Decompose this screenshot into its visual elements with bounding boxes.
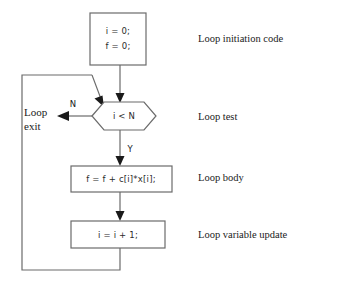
node-update-label: i = i + 1; bbox=[98, 230, 138, 240]
node-init-line1: i = 0; bbox=[106, 26, 130, 36]
connector-loop-feedback-diagonal bbox=[92, 75, 101, 99]
loop-exit-label-line1: Loop bbox=[24, 106, 48, 118]
annotation-loop-initiation-code: Loop initiation code bbox=[198, 33, 283, 44]
arrowhead-test-to-body bbox=[116, 156, 125, 166]
flowchart-canvas: i = 0; f = 0; i < N f = f + c[i]*x[i]; i… bbox=[0, 0, 337, 285]
node-test-label: i < N bbox=[113, 111, 135, 121]
arrowhead-test-to-exit bbox=[57, 111, 69, 121]
node-init-line2: f = 0; bbox=[106, 41, 131, 51]
branch-label-no: N bbox=[70, 99, 76, 109]
arrowhead-body-to-update bbox=[116, 211, 125, 221]
node-init-box[interactable] bbox=[90, 13, 146, 65]
node-body-label: f = f + c[i]*x[i]; bbox=[86, 174, 155, 184]
annotation-loop-body: Loop body bbox=[198, 172, 245, 183]
annotation-loop-variable-update: Loop variable update bbox=[198, 229, 288, 240]
loop-exit-label-line2: exit bbox=[24, 120, 41, 132]
annotation-loop-test: Loop test bbox=[198, 111, 237, 122]
flowchart-diagram: i = 0; f = 0; i < N f = f + c[i]*x[i]; i… bbox=[0, 0, 337, 285]
branch-label-yes: Y bbox=[126, 144, 133, 154]
